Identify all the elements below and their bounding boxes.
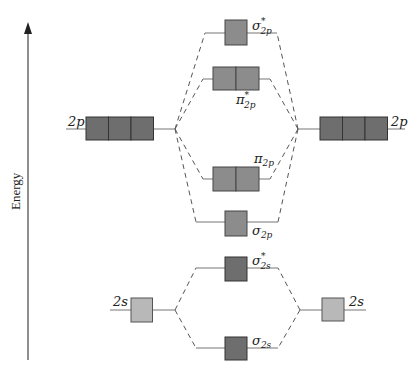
mo-sigma-star-2s: σ*2s — [196, 251, 278, 281]
atomic-orbital-right-2s: 2s — [300, 294, 366, 321]
mo-sigma-2s: σ2s — [196, 333, 278, 360]
mo-sigma-2p: σ2p — [196, 211, 278, 240]
sigma-2s-label: σ2s — [252, 333, 272, 350]
arrowhead-icon — [24, 22, 32, 34]
mo-pi-2p: π2p — [203, 151, 274, 191]
energy-axis: Energy — [8, 22, 32, 360]
right-2s-label: 2s — [348, 294, 364, 309]
pi-star-2p-label: π*2p — [235, 90, 256, 110]
energy-axis-label: Energy — [8, 172, 23, 210]
left-2p-label: 2p — [67, 114, 85, 129]
left-2s-label: 2s — [112, 294, 128, 309]
atomic-orbital-left-2s: 2s — [110, 294, 175, 322]
mo-diagram: Energy 2p 2p 2s — [0, 0, 417, 370]
pi-2p-label: π2p — [253, 151, 274, 168]
atomic-orbital-left-2p: 2p — [66, 114, 175, 140]
right-2p-label: 2p — [390, 114, 408, 129]
atomic-orbital-right-2p: 2p — [298, 114, 408, 140]
sigma-2p-label: σ2p — [252, 223, 273, 240]
mo-sigma-star-2p: σ*2p — [205, 16, 277, 45]
mo-pi-star-2p: π*2p — [203, 67, 270, 110]
